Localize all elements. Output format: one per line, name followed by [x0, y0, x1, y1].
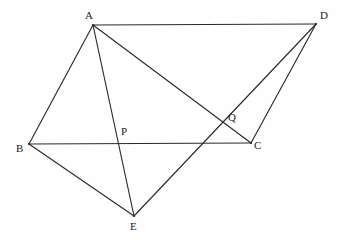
geometry-diagram: ADBCEPQ: [0, 0, 342, 246]
point-label-d: D: [320, 10, 328, 21]
edge-de: [134, 24, 316, 216]
edge-bc: [29, 143, 251, 144]
point-label-e: E: [130, 221, 137, 232]
vertex-dot-d: [315, 23, 317, 25]
point-label-c: C: [254, 140, 261, 151]
edge-ab: [29, 25, 93, 144]
edge-ac: [93, 25, 251, 143]
point-label-a: A: [85, 10, 93, 21]
edge-dc: [251, 24, 316, 143]
vertex-dot-c: [250, 142, 252, 144]
vertex-dot-a: [92, 24, 94, 26]
edges-group: [29, 24, 316, 216]
point-label-b: B: [16, 143, 23, 154]
geometry-canvas: [0, 0, 342, 246]
point-label-q: Q: [228, 112, 236, 123]
edge-ad: [93, 24, 316, 25]
vertex-dot-e: [133, 215, 135, 217]
vertex-dot-b: [28, 143, 30, 145]
edge-be: [29, 144, 134, 216]
vertex-dots-group: [28, 23, 317, 217]
point-label-p: P: [121, 126, 127, 137]
edge-ae: [93, 25, 134, 216]
